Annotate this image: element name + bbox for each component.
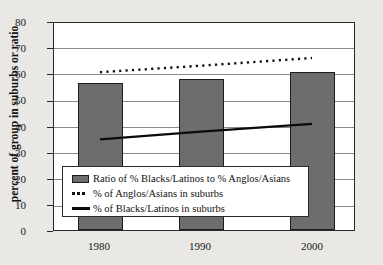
legend-label-ratio: Ratio of % Blacks/Latinos to % Anglos/As… bbox=[93, 173, 290, 184]
y-tick-label-10: 10 bbox=[0, 200, 26, 211]
y-tick-label-20: 20 bbox=[0, 174, 26, 185]
legend-item-ratio: Ratio of % Blacks/Latinos to % Anglos/As… bbox=[63, 171, 308, 186]
x-tick-label-2000: 2000 bbox=[282, 240, 342, 252]
dotted-line-anglos-asians bbox=[100, 58, 312, 72]
legend-item-anglos-asians: % of Anglos/Asians in suburbs bbox=[63, 186, 308, 201]
bar-swatch-icon bbox=[72, 175, 89, 183]
legend-label-anglos-asians: % of Anglos/Asians in suburbs bbox=[93, 188, 223, 199]
dotted-line-icon bbox=[72, 190, 89, 198]
chart-legend: Ratio of % Blacks/Latinos to % Anglos/As… bbox=[62, 166, 309, 217]
chart-figure: percent of group in suburbs or ratio 80 … bbox=[0, 0, 383, 265]
solid-line-blacks-latinos bbox=[100, 124, 312, 139]
legend-label-blacks-latinos: % of Blacks/Latinos in suburbs bbox=[93, 203, 225, 214]
legend-item-blacks-latinos: % of Blacks/Latinos in suburbs bbox=[63, 201, 308, 216]
y-tick-label-30: 30 bbox=[0, 148, 26, 159]
y-tick-label-60: 60 bbox=[0, 69, 26, 80]
y-tick-mark-0 bbox=[47, 231, 53, 232]
solid-line-icon bbox=[72, 205, 90, 213]
x-tick-label-1990: 1990 bbox=[170, 240, 230, 252]
y-tick-label-80: 80 bbox=[0, 17, 26, 28]
y-tick-label-40: 40 bbox=[0, 122, 26, 133]
y-tick-label-0: 0 bbox=[0, 226, 26, 237]
x-tick-label-1980: 1980 bbox=[69, 240, 129, 252]
y-tick-label-70: 70 bbox=[0, 43, 26, 54]
y-tick-label-50: 50 bbox=[0, 95, 26, 106]
